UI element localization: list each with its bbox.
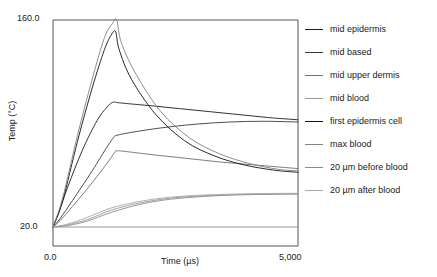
legend-item-mid-upper-dermis[interactable]: mid upper dermis: [305, 64, 437, 87]
x-axis-tick-left: 0.0: [44, 252, 57, 262]
legend-label: mid upper dermis: [330, 71, 400, 80]
legend-swatch-icon: [305, 98, 323, 99]
legend-swatch-icon: [305, 167, 323, 168]
chart-legend: mid epidermismid basedmid upper dermismi…: [305, 18, 437, 202]
legend-label: max blood: [330, 140, 372, 149]
series-line-mid-based: [53, 121, 298, 227]
legend-label: mid epidermis: [330, 25, 386, 34]
legend-label: mid blood: [330, 94, 369, 103]
legend-swatch-icon: [305, 121, 323, 122]
series-line-20-m-before-blood: [53, 194, 298, 227]
legend-item-mid-blood[interactable]: mid blood: [305, 87, 437, 110]
series-line-mid-upper-dermis: [53, 151, 298, 227]
x-axis-tick-right: 5,000: [279, 252, 302, 262]
y-axis-tick-top: 160.0: [17, 13, 40, 23]
legend-label: 20 µm after blood: [330, 186, 400, 195]
legend-label: mid based: [330, 48, 372, 57]
legend-item-20-m-before-blood[interactable]: 20 µm before blood: [305, 156, 437, 179]
legend-item-mid-epidermis[interactable]: mid epidermis: [305, 18, 437, 41]
legend-swatch-icon: [305, 144, 323, 145]
legend-item-mid-based[interactable]: mid based: [305, 41, 437, 64]
legend-swatch-icon: [305, 190, 323, 191]
legend-item-max-blood[interactable]: max blood: [305, 133, 437, 156]
legend-label: 20 µm before blood: [330, 163, 408, 172]
legend-swatch-icon: [305, 29, 323, 30]
series-lines: [53, 19, 298, 227]
legend-label: first epidermis cell: [330, 117, 402, 126]
x-axis-title: Time (µs): [140, 256, 220, 266]
plot-frame: [53, 20, 298, 246]
legend-swatch-icon: [305, 75, 323, 76]
legend-item-first-epidermis-cell[interactable]: first epidermis cell: [305, 110, 437, 133]
legend-item-20-m-after-blood[interactable]: 20 µm after blood: [305, 179, 437, 202]
legend-swatch-icon: [305, 52, 323, 53]
y-axis-title: Temp (°C): [7, 91, 17, 151]
y-axis-tick-bottom: 20.0: [20, 221, 38, 231]
series-line-max-blood: [53, 19, 298, 227]
series-line-mid-epidermis: [53, 102, 298, 227]
chart-figure: 160.0 20.0 0.0 5,000 Temp (°C) Time (µs)…: [0, 0, 437, 277]
